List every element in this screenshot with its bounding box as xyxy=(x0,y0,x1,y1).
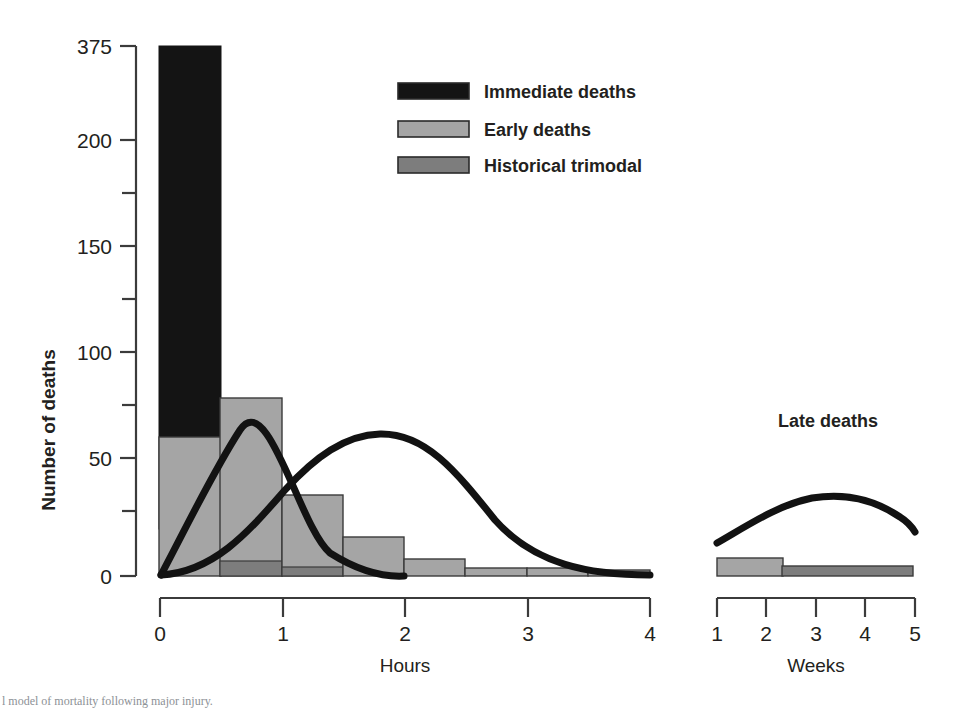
y-tick-label-100: 100 xyxy=(77,341,112,364)
legend: Immediate deaths Early deaths Historical… xyxy=(398,82,642,176)
legend-item-early-deaths: Early deaths xyxy=(398,120,591,140)
legend-swatch-historical-trimodal xyxy=(398,157,469,173)
y-axis-title: Number of deaths xyxy=(38,349,59,511)
y-axis: 375 200 150 100 50 0 xyxy=(77,35,136,588)
legend-swatch-early-deaths xyxy=(398,121,469,137)
legend-label-early-deaths: Early deaths xyxy=(484,120,591,140)
legend-swatch-immediate-deaths xyxy=(398,83,469,99)
legend-label-historical-trimodal: Historical trimodal xyxy=(484,156,642,176)
trimodal-mortality-chart: 375 200 150 100 50 0 Number of deaths xyxy=(0,0,958,716)
legend-item-immediate-deaths: Immediate deaths xyxy=(398,82,636,102)
figure-caption: l model of mortality following major inj… xyxy=(2,694,952,709)
x-tick-label-weeks-2: 2 xyxy=(760,622,772,645)
bar-early-week-1 xyxy=(717,558,783,576)
legend-label-immediate-deaths: Immediate deaths xyxy=(484,82,636,102)
x-tick-label-hours-1: 1 xyxy=(277,622,289,645)
weeks-panel: Late deaths 1 2 3 4 5 Week xyxy=(711,411,921,676)
y-tick-label-150: 150 xyxy=(77,235,112,258)
x-tick-label-hours-2: 2 xyxy=(399,622,411,645)
x-axis-hours-title: Hours xyxy=(380,655,431,676)
late-deaths-curve xyxy=(717,496,915,543)
bar-historical-bin-2 xyxy=(282,567,343,576)
late-deaths-label: Late deaths xyxy=(778,411,878,431)
x-axis-weeks-title: Weeks xyxy=(787,655,845,676)
x-tick-label-weeks-5: 5 xyxy=(909,622,921,645)
x-tick-label-hours-3: 3 xyxy=(522,622,534,645)
x-tick-label-weeks-4: 4 xyxy=(859,622,871,645)
bar-historical-bin-1 xyxy=(220,561,282,576)
weeks-bars-group xyxy=(717,558,913,576)
x-axis-hours: 0 1 2 3 4 Hours xyxy=(154,598,656,676)
y-tick-label-0: 0 xyxy=(100,565,112,588)
x-tick-label-hours-4: 4 xyxy=(644,622,656,645)
x-tick-label-hours-0: 0 xyxy=(154,622,166,645)
x-tick-label-weeks-3: 3 xyxy=(810,622,822,645)
x-axis-weeks: 1 2 3 4 5 Weeks xyxy=(711,598,921,676)
x-tick-label-weeks-1: 1 xyxy=(711,622,723,645)
y-tick-label-200: 200 xyxy=(77,129,112,152)
bar-early-bin-5 xyxy=(465,568,527,576)
legend-item-historical-trimodal: Historical trimodal xyxy=(398,156,642,176)
bar-early-bin-4 xyxy=(404,559,465,576)
bar-historical-week-2-5 xyxy=(782,566,913,576)
figure-root: 375 200 150 100 50 0 Number of deaths xyxy=(0,0,958,716)
y-tick-label-375: 375 xyxy=(77,35,112,58)
y-tick-label-50: 50 xyxy=(89,447,112,470)
bar-early-bin-2 xyxy=(282,495,343,576)
